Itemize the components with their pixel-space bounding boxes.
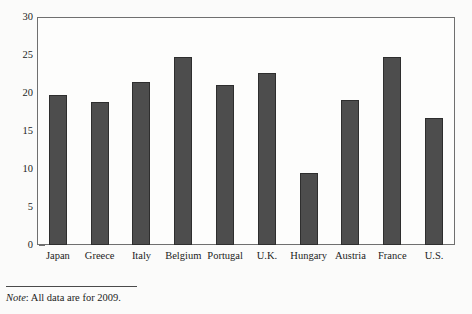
x-axis: JapanGreeceItalyBelgiumPortugalU.K.Hunga… bbox=[37, 249, 455, 269]
bar-chart-figure: 051015202530 JapanGreeceItalyBelgiumPort… bbox=[0, 0, 472, 314]
note-text: Note: All data are for 2009. bbox=[6, 291, 466, 304]
y-axis-tick-label: 10 bbox=[23, 163, 34, 175]
bar-austria[interactable] bbox=[341, 100, 359, 245]
bar-slot bbox=[79, 17, 121, 245]
bar-hungary[interactable] bbox=[300, 173, 318, 245]
note-block: Note: All data are for 2009. bbox=[6, 286, 466, 304]
note-label: Note bbox=[6, 292, 26, 303]
bar-japan[interactable] bbox=[49, 95, 67, 245]
bar-italy[interactable] bbox=[132, 82, 150, 245]
y-axis-tick-label: 30 bbox=[23, 11, 34, 23]
bar-slot bbox=[162, 17, 204, 245]
y-axis-tick-label: 25 bbox=[23, 49, 34, 61]
plot-area bbox=[37, 17, 455, 245]
y-axis-tick-label: 20 bbox=[23, 87, 34, 99]
y-axis-tick-label: 5 bbox=[28, 201, 33, 213]
bar-slot bbox=[288, 17, 330, 245]
bar-slot bbox=[121, 17, 163, 245]
bar-france[interactable] bbox=[383, 57, 401, 245]
note-divider bbox=[6, 286, 137, 287]
bar-u-k[interactable] bbox=[258, 73, 276, 245]
y-axis-tick-label: 15 bbox=[23, 125, 34, 137]
bar-belgium[interactable] bbox=[174, 57, 192, 245]
bar-slot bbox=[37, 17, 79, 245]
bar-portugal[interactable] bbox=[216, 85, 234, 245]
bar-slot bbox=[246, 17, 288, 245]
bar-slot bbox=[330, 17, 372, 245]
bar-slot bbox=[371, 17, 413, 245]
bar-slot bbox=[413, 17, 455, 245]
y-axis: 051015202530 bbox=[0, 0, 37, 314]
bar-slot bbox=[204, 17, 246, 245]
bar-greece[interactable] bbox=[91, 102, 109, 245]
note-body: All data are for 2009. bbox=[31, 292, 121, 303]
x-axis-label-u-s: U.S. bbox=[404, 249, 464, 263]
bar-u-s[interactable] bbox=[425, 118, 443, 245]
